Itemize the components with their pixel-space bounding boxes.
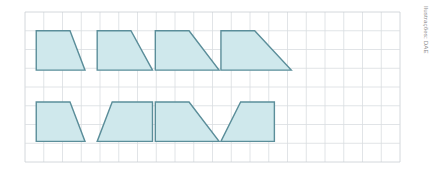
credit-block: Ilustrações: DAE	[419, 6, 433, 90]
figure-container: Ilustrações: DAE	[0, 0, 435, 173]
credit-label: Ilustrações: DAE	[419, 6, 433, 90]
trapezoid-6	[97, 102, 152, 141]
grid-figure	[0, 0, 435, 173]
trapezoid-7	[155, 102, 219, 141]
trapezoid-4	[221, 31, 291, 70]
trapezoid-8	[221, 102, 274, 141]
trapezoid-1	[36, 31, 85, 70]
trapezoid-2	[97, 31, 152, 70]
shapes-layer	[36, 31, 291, 142]
trapezoid-3	[155, 31, 219, 70]
trapezoid-5	[36, 102, 85, 141]
